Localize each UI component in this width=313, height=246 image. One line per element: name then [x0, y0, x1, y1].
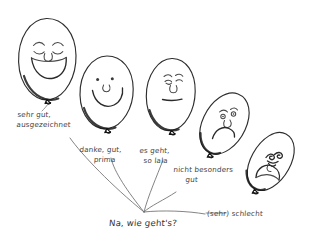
- caption-balloon-1-line1: sehr gut,: [17, 110, 51, 119]
- caption-balloon-3-line2: so lala: [143, 156, 169, 166]
- caption-balloon-2-line1: danke, gut,: [79, 145, 122, 154]
- caption-balloon-3-line1: es geht,: [139, 146, 170, 155]
- string-balloon-5: [144, 211, 205, 214]
- caption-balloon-2-line2: prima: [88, 155, 121, 165]
- balloon-2-graphic: [80, 56, 133, 133]
- caption-balloon-4-line1: nicht besonders: [173, 165, 234, 174]
- caption-balloon-1-line2: ausgezeichnet: [16, 120, 71, 130]
- caption-balloon-2: danke, gut, prima: [78, 145, 122, 164]
- caption-balloon-1: sehr gut, ausgezeichnet: [16, 110, 72, 129]
- caption-balloon-4: nicht besonders gut: [172, 165, 233, 184]
- question-label: Na, wie geht's?: [109, 219, 178, 229]
- question-text: Na, wie geht's?: [109, 218, 178, 228]
- balloon-4-graphic: [200, 93, 249, 158]
- caption-balloon-5: (sehr) schlecht: [207, 209, 264, 219]
- caption-balloon-3: es geht, so lala: [138, 146, 170, 165]
- balloon-5-graphic: [247, 132, 295, 193]
- balloon-mood-scale-drawing: sehr gut, ausgezeichnet danke, gut, prim…: [0, 0, 313, 246]
- caption-balloon-4-line2: gut: [185, 175, 233, 185]
- string-balloon-3: [144, 160, 163, 212]
- balloon-3-graphic: [146, 58, 195, 134]
- balloon-1-graphic: [19, 18, 76, 104]
- caption-balloon-5-line1: (sehr) schlecht: [207, 209, 264, 218]
- string-balloon-4: [144, 192, 176, 212]
- string-balloon-2: [111, 158, 144, 212]
